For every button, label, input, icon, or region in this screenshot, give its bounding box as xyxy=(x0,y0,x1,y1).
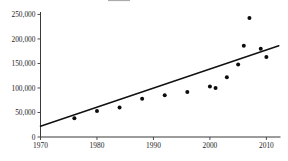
y-axis-tick-label: 0 xyxy=(32,133,36,142)
data-point xyxy=(163,93,167,97)
scatter-plot: 050,000100,000150,000200,000250,000 1970… xyxy=(0,0,288,161)
data-point xyxy=(208,85,212,89)
data-point xyxy=(247,16,251,20)
data-point xyxy=(259,47,263,51)
data-point xyxy=(95,109,99,113)
y-axis-tick-label: 150,000 xyxy=(11,59,35,68)
x-axis-tick-label: 1990 xyxy=(146,141,161,150)
data-point xyxy=(236,62,240,66)
trend-line xyxy=(41,46,279,126)
x-axis-tick-label: 2010 xyxy=(259,141,274,150)
y-axis-tick-label: 250,000 xyxy=(11,10,35,19)
data-point xyxy=(214,86,218,90)
scatter-points xyxy=(72,16,268,120)
data-point xyxy=(264,55,268,59)
data-point xyxy=(242,44,246,48)
y-axis-tick-label: 200,000 xyxy=(11,35,35,44)
data-point xyxy=(185,90,189,94)
data-point xyxy=(140,97,144,101)
y-axis: 050,000100,000150,000200,000250,000 xyxy=(11,10,40,142)
x-axis-tick-label: 2000 xyxy=(203,141,218,150)
y-axis-tick-label: 100,000 xyxy=(11,84,35,93)
x-axis: 19701980199020002010 xyxy=(33,137,280,150)
data-point xyxy=(118,106,122,110)
x-axis-tick-label: 1980 xyxy=(90,141,105,150)
x-axis-tick-label: 1970 xyxy=(33,141,48,150)
chart-container: 050,000100,000150,000200,000250,000 1970… xyxy=(0,0,288,161)
data-point xyxy=(72,116,76,120)
y-axis-tick-label: 50,000 xyxy=(15,108,36,117)
data-series xyxy=(41,16,279,126)
data-point xyxy=(225,75,229,79)
